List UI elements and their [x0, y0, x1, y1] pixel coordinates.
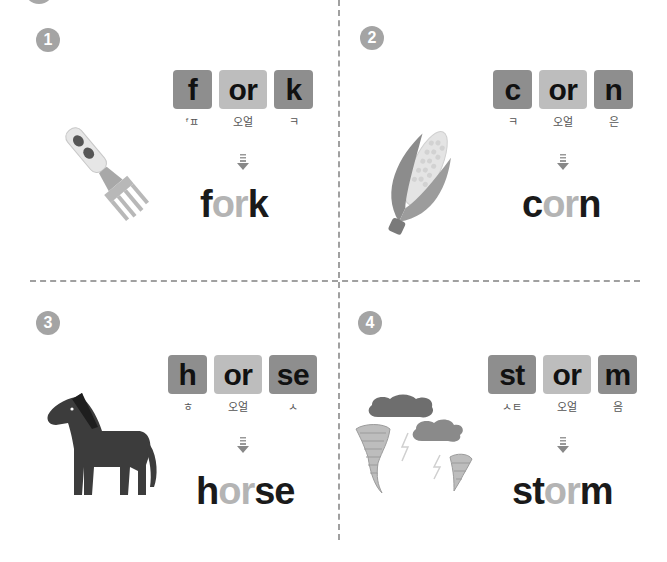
pronunciation-hints: ㅋ 오얼 은 — [493, 116, 633, 130]
hint-vowel: 오얼 — [214, 401, 262, 415]
arrow-down-icon — [556, 154, 570, 172]
result-word: corn — [522, 184, 600, 224]
result-word: storm — [512, 471, 613, 511]
word-part: st — [512, 470, 544, 512]
hint-vowel: 오얼 — [219, 116, 267, 130]
word-part: or — [544, 470, 580, 512]
word-part: or — [542, 183, 578, 225]
hint-coda: 음 — [598, 401, 637, 415]
tile-vowel: or — [219, 70, 267, 109]
number-badge: 2 — [360, 26, 384, 50]
word-part: n — [578, 183, 600, 225]
phonics-tiles: f or k — [173, 70, 313, 109]
pronunciation-hints: ㅎ 오얼 ㅅ — [168, 401, 317, 415]
tile-coda: k — [274, 70, 313, 109]
arrow-down-icon — [236, 154, 250, 172]
hint-vowel: 오얼 — [543, 401, 591, 415]
tile-onset: h — [168, 355, 207, 394]
word-part: c — [522, 183, 542, 225]
phonics-tiles: h or se — [168, 355, 317, 394]
corn-icon — [368, 116, 468, 246]
hint-onset: ㅋ — [493, 116, 532, 130]
hint-onset: ᶠㅍ — [173, 116, 212, 130]
hint-vowel: 오얼 — [539, 116, 587, 130]
item-horse: 3 h or se ㅎ 오얼 ㅅ horse — [0, 285, 320, 555]
word-part: k — [248, 183, 268, 225]
tile-onset: st — [488, 355, 536, 394]
hint-coda: ㅋ — [274, 116, 313, 130]
tile-coda: m — [598, 355, 637, 394]
tile-onset: c — [493, 70, 532, 109]
hint-coda: 은 — [594, 116, 633, 130]
word-part: or — [212, 183, 248, 225]
storm-icon — [354, 393, 484, 503]
hint-coda: ㅅ — [269, 401, 317, 415]
item-fork: 1 f or k ᶠㅍ 오얼 ㅋ fork — [0, 0, 320, 270]
word-part: h — [196, 470, 218, 512]
fork-icon — [44, 118, 164, 228]
number-badge: 4 — [358, 311, 382, 335]
arrow-down-icon — [236, 437, 250, 455]
word-part: or — [218, 470, 254, 512]
phonics-tiles: st or m — [488, 355, 637, 394]
pronunciation-hints: ㅅㅌ 오얼 음 — [488, 401, 637, 415]
tile-coda: n — [594, 70, 633, 109]
number-badge: 3 — [36, 311, 60, 335]
pronunciation-hints: ᶠㅍ 오얼 ㅋ — [173, 116, 313, 130]
horse-icon — [42, 387, 162, 507]
number-badge: 1 — [36, 28, 60, 52]
horizontal-divider — [30, 280, 640, 282]
item-storm: 4 st or m ㅅㅌ 오얼 음 storm — [340, 285, 660, 555]
word-part: se — [254, 470, 294, 512]
tile-vowel: or — [543, 355, 591, 394]
phonics-tiles: c or n — [493, 70, 633, 109]
result-word: horse — [196, 471, 295, 511]
word-part: f — [200, 183, 212, 225]
hint-onset: ㅎ — [168, 401, 207, 415]
arrow-down-icon — [556, 437, 570, 455]
result-word: fork — [200, 184, 268, 224]
tile-onset: f — [173, 70, 212, 109]
tile-vowel: or — [214, 355, 262, 394]
hint-onset: ㅅㅌ — [488, 401, 536, 415]
word-part: m — [580, 470, 613, 512]
tile-coda: se — [269, 355, 317, 394]
item-corn: 2 c or n ㅋ 오얼 은 corn — [340, 0, 660, 270]
tile-vowel: or — [539, 70, 587, 109]
